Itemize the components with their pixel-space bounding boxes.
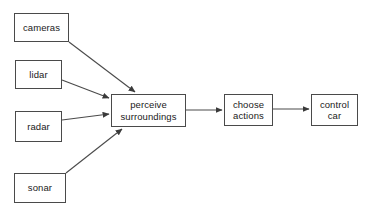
node-cameras-label: cameras [23,22,60,34]
edge-sonar-to-perceive [66,129,122,173]
node-perceive-surroundings[interactable]: perceive surroundings [111,94,186,127]
node-control-car[interactable]: control car [311,94,358,126]
node-lidar[interactable]: lidar [15,60,62,89]
node-sonar-label: sonar [28,182,52,194]
node-control-car-label: control car [320,99,349,122]
edge-cameras-to-perceive [69,42,135,92]
node-cameras[interactable]: cameras [14,13,69,42]
node-radar[interactable]: radar [15,111,62,142]
diagram-canvas: cameras lidar radar sonar perceive surro… [0,0,372,218]
edge-lidar-to-perceive [62,80,109,98]
node-choose-actions[interactable]: choose actions [224,94,273,126]
edge-radar-to-perceive [62,114,109,120]
node-radar-label: radar [27,121,50,133]
node-sonar[interactable]: sonar [14,173,66,203]
node-perceive-surroundings-label: perceive surroundings [120,99,176,122]
node-lidar-label: lidar [29,69,47,81]
node-choose-actions-label: choose actions [233,99,264,122]
